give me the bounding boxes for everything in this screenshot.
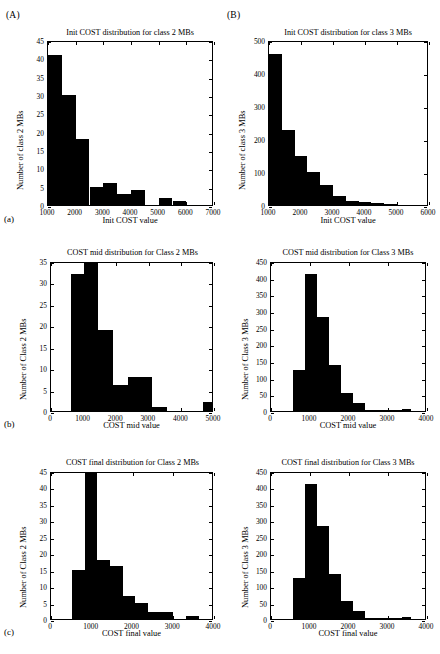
y-tick-label: 0 bbox=[245, 616, 267, 625]
x-tick bbox=[388, 616, 389, 619]
y-tick bbox=[271, 572, 274, 573]
bar bbox=[329, 574, 341, 619]
x-axis-title-final-class3: COST final value bbox=[270, 629, 426, 638]
x-tick bbox=[271, 616, 272, 619]
y-tick bbox=[271, 489, 274, 490]
y-tick bbox=[271, 605, 274, 606]
x-tick bbox=[310, 616, 311, 619]
plot-area-final-class3 bbox=[270, 472, 426, 620]
x-tick bbox=[427, 473, 428, 476]
y-tick bbox=[271, 522, 274, 523]
y-tick-label: 350 bbox=[245, 500, 267, 509]
bars-final-class3 bbox=[271, 473, 425, 619]
y-tick bbox=[271, 506, 274, 507]
x-tick bbox=[349, 616, 350, 619]
y-tick bbox=[422, 572, 425, 573]
chart-title-final-class3: COST final distribution for Class 3 MBs bbox=[258, 458, 438, 467]
y-tick bbox=[422, 605, 425, 606]
x-tick bbox=[388, 473, 389, 476]
y-tick bbox=[422, 489, 425, 490]
bar bbox=[353, 611, 365, 619]
x-tick bbox=[310, 473, 311, 476]
y-tick bbox=[422, 555, 425, 556]
bar bbox=[317, 526, 329, 619]
y-tick-label: 300 bbox=[245, 517, 267, 526]
y-tick bbox=[422, 588, 425, 589]
y-tick bbox=[422, 522, 425, 523]
figure-histogram-grid: (A)Init COST distribution for class 2 MB… bbox=[0, 0, 440, 654]
y-tick-label: 450 bbox=[245, 468, 267, 477]
y-tick bbox=[271, 539, 274, 540]
y-tick bbox=[422, 539, 425, 540]
bar bbox=[365, 618, 401, 619]
bar bbox=[341, 601, 353, 619]
x-tick bbox=[349, 473, 350, 476]
y-tick bbox=[422, 473, 425, 474]
bar bbox=[293, 578, 305, 619]
y-tick-label: 400 bbox=[245, 484, 267, 493]
y-tick bbox=[271, 473, 274, 474]
sub-caption: (c) bbox=[4, 627, 14, 637]
chart-panel-final-class3: COST final distribution for Class 3 MBs0… bbox=[0, 0, 440, 654]
y-axis-title-final-class3: Number of Class 3 MBs bbox=[241, 527, 250, 608]
bar bbox=[305, 484, 317, 619]
y-tick bbox=[271, 588, 274, 589]
y-tick bbox=[271, 555, 274, 556]
x-tick bbox=[427, 616, 428, 619]
bar bbox=[402, 617, 412, 619]
y-tick bbox=[422, 506, 425, 507]
